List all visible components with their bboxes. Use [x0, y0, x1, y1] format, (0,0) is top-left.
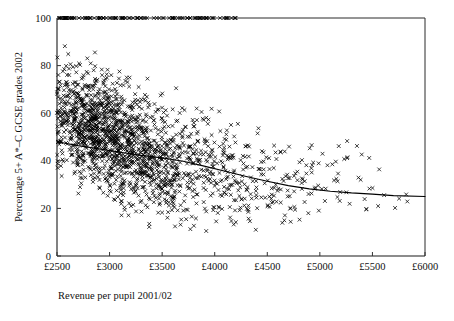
data-point-marker: [262, 173, 266, 177]
scatter-chart: 020406080100 £2500£3000£3500£4000£4500£5…: [0, 0, 454, 321]
data-point-marker: [308, 146, 312, 150]
data-point-marker: [89, 93, 93, 97]
data-point-marker: [363, 197, 367, 201]
data-point-marker: [163, 147, 167, 151]
data-point-marker: [137, 85, 141, 89]
data-point-marker: [183, 108, 187, 112]
data-point-marker: [262, 168, 266, 172]
data-point-marker: [79, 181, 83, 185]
data-point-marker: [61, 152, 65, 156]
data-point-marker: [203, 142, 207, 146]
data-point-marker: [200, 110, 204, 114]
data-point-marker: [160, 211, 164, 215]
data-point-marker: [59, 164, 63, 168]
data-point-marker: [238, 194, 242, 198]
data-point-marker: [304, 163, 308, 167]
data-point-marker: [218, 171, 222, 175]
data-point-marker: [317, 161, 321, 165]
data-point-marker: [92, 68, 96, 72]
data-point-marker: [193, 143, 197, 147]
data-point-marker: [157, 197, 161, 201]
data-point-marker: [139, 200, 143, 204]
data-point-marker: [195, 148, 199, 152]
data-point-marker: [152, 119, 156, 123]
data-point-marker: [219, 159, 223, 163]
data-point-marker: [303, 200, 307, 204]
data-point-marker: [156, 132, 160, 136]
data-point-marker: [58, 102, 62, 106]
data-point-marker: [272, 166, 276, 170]
data-point-marker: [91, 88, 95, 92]
data-point-marker: [255, 196, 259, 200]
data-point-marker: [60, 135, 64, 139]
y-tick-label: 0: [46, 251, 51, 262]
data-point-marker: [268, 167, 272, 171]
data-point-marker: [228, 216, 232, 220]
data-point-marker: [80, 77, 84, 81]
data-point-marker: [260, 196, 264, 200]
data-point-marker: [164, 108, 168, 112]
data-point-marker: [171, 124, 175, 128]
data-point-marker: [191, 195, 195, 199]
data-point-marker: [224, 133, 228, 137]
data-point-marker: [152, 200, 156, 204]
data-point-marker: [250, 197, 254, 201]
y-tick-label: 100: [35, 13, 51, 24]
data-point-marker: [65, 158, 69, 162]
x-tick-label: £5000: [307, 261, 333, 272]
data-point-marker: [310, 143, 314, 147]
data-point-marker: [272, 144, 276, 148]
data-point-marker: [120, 213, 124, 217]
data-point-marker: [254, 228, 258, 232]
data-point-marker: [71, 161, 75, 165]
data-point-marker: [242, 162, 246, 166]
data-point-marker: [77, 106, 81, 110]
data-point-marker: [128, 180, 132, 184]
data-point-marker: [145, 193, 149, 197]
data-point-marker: [195, 107, 199, 111]
data-point-marker: [171, 107, 175, 111]
data-point-marker: [263, 196, 267, 200]
data-point-marker: [342, 157, 346, 161]
data-point-marker: [167, 200, 171, 204]
data-point-marker: [191, 172, 195, 176]
data-point-marker: [204, 150, 208, 154]
data-point-marker: [289, 220, 293, 224]
data-point-marker: [184, 150, 188, 154]
data-point-marker: [74, 70, 78, 74]
data-point-marker: [210, 133, 214, 137]
data-point-marker: [221, 142, 225, 146]
data-point-marker: [170, 186, 174, 190]
data-point-marker: [204, 175, 208, 179]
data-point-marker: [236, 122, 240, 126]
data-point-marker: [101, 191, 105, 195]
data-point-marker: [160, 92, 164, 96]
y-tick-label: 40: [41, 155, 52, 166]
data-point-marker: [153, 102, 157, 106]
data-point-marker: [323, 199, 327, 203]
scatter-points: [55, 16, 409, 233]
data-point-marker: [247, 145, 251, 149]
data-point-marker: [176, 209, 180, 213]
data-point-marker: [166, 210, 170, 214]
data-point-marker: [186, 151, 190, 155]
data-point-marker: [233, 209, 237, 213]
data-point-marker: [298, 218, 302, 222]
data-point-marker: [63, 136, 67, 140]
data-point-marker: [345, 139, 349, 143]
data-point-marker: [215, 161, 219, 165]
data-point-marker: [371, 186, 375, 190]
data-point-marker: [228, 205, 232, 209]
data-point-marker: [201, 117, 205, 121]
data-point-marker: [156, 211, 160, 215]
data-point-marker: [209, 194, 213, 198]
data-point-marker: [102, 172, 106, 176]
data-point-marker: [330, 162, 334, 166]
data-point-marker: [104, 77, 108, 81]
data-point-marker: [95, 162, 99, 166]
data-point-marker: [134, 210, 138, 214]
data-point-marker: [186, 135, 190, 139]
data-point-marker: [275, 157, 279, 161]
data-point-marker: [194, 217, 198, 221]
data-point-marker: [186, 181, 190, 185]
